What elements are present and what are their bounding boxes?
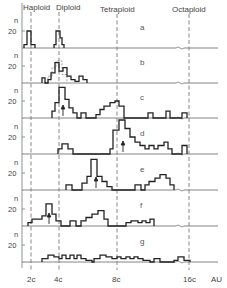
y-axis-name: n — [14, 122, 18, 131]
histogram — [24, 31, 35, 48]
histogram — [58, 120, 187, 154]
panel-label: g — [140, 237, 144, 246]
arrowhead-icon — [121, 141, 125, 145]
y-tick-label: 20 — [8, 97, 16, 106]
panel-e: 20ne — [8, 158, 218, 191]
x-axis-unit: AU — [211, 275, 222, 284]
x-tick-16c: 16c — [183, 275, 196, 284]
y-tick-label: 20 — [8, 27, 16, 36]
histogram — [42, 255, 190, 262]
y-axis-name: n — [14, 51, 18, 60]
arrowhead-icon — [61, 105, 65, 109]
y-tick-label: 20 — [8, 205, 16, 214]
histogram — [28, 204, 154, 226]
panel-label: d — [140, 129, 144, 138]
panel-label: a — [140, 23, 145, 32]
y-tick-label: 20 — [8, 169, 16, 178]
y-axis-name: n — [14, 16, 18, 25]
ploidy-histogram-figure: Haploid Diploid Tetraploid Octaploid 20n… — [0, 0, 227, 288]
axis-break-icon — [176, 261, 184, 263]
panel-b: 20nb — [8, 51, 218, 84]
x-tick-4c: 4c — [54, 275, 62, 284]
panel-label: c — [140, 93, 144, 102]
octaploid-label: Octaploid — [172, 5, 206, 14]
panels-group: 20na20nb20nc20nd20ne20nf20ng — [8, 16, 218, 263]
panel-label: e — [140, 165, 145, 174]
x-tick-8c: 8c — [112, 275, 120, 284]
axis-break-icon — [176, 82, 184, 84]
tetraploid-label: Tetraploid — [100, 5, 135, 14]
y-axis-name: n — [14, 230, 18, 239]
panel-c: 20nc — [8, 86, 218, 119]
y-axis-name: n — [14, 194, 18, 203]
axis-break-icon — [176, 225, 184, 227]
axis-break-icon — [176, 47, 184, 49]
y-axis-name: n — [14, 86, 18, 95]
panel-a: 20na — [8, 16, 218, 49]
arrowhead-icon — [47, 213, 51, 217]
histogram — [42, 63, 87, 83]
panel-d: 20nd — [8, 120, 218, 155]
y-tick-label: 20 — [8, 241, 16, 250]
y-tick-label: 20 — [8, 133, 16, 142]
haploid-label: Haploid — [23, 3, 50, 12]
y-axis-name: n — [14, 158, 18, 167]
histogram — [66, 159, 174, 190]
x-tick-2c: 2c — [27, 275, 35, 284]
panel-label: b — [140, 58, 145, 67]
axis-break-icon — [176, 189, 184, 191]
panel-g: 20ng — [8, 230, 218, 263]
y-tick-label: 20 — [8, 62, 16, 71]
panel-f: 20nf — [8, 194, 218, 227]
arrowhead-icon — [94, 177, 98, 181]
diploid-label: Diploid — [56, 3, 80, 12]
panel-label: f — [140, 201, 143, 210]
histogram — [52, 87, 187, 118]
